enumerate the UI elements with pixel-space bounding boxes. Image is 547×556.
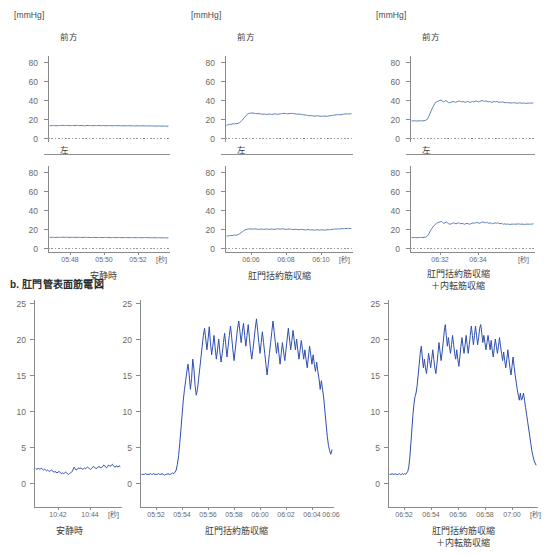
manometry-plot-3 xyxy=(370,8,547,258)
emg-xtick-1-1: 10:44 xyxy=(74,511,106,518)
emg-xtick-3-4: 07:00 xyxy=(496,511,528,518)
manometry-xtick-3-1: 06:34 xyxy=(462,256,494,263)
manometry-trace-left-3 xyxy=(412,221,533,237)
emg-section: 25 20 15 10 5 0 xyxy=(0,292,547,556)
emg-plot-2 xyxy=(108,292,338,512)
emg-panel-sphincter-adductor: 25 20 15 10 5 0 xyxy=(338,292,547,556)
emg-axes-2 xyxy=(136,300,334,510)
manometry-xtick-1-1: 05:50 xyxy=(88,256,120,263)
manometry-panel-rest: [mmHg] 前方 左 80 60 40 20 0 80 60 40 20 0 xyxy=(8,8,178,270)
emg-xtick-1-0: 10:42 xyxy=(42,511,74,518)
manometry-section: [mmHg] 前方 左 80 60 40 20 0 80 60 40 20 0 xyxy=(0,0,547,272)
manometry-trace-anterior-3 xyxy=(412,100,533,121)
manometry-panel-sphincter: [mmHg] 前方 左 80 60 40 20 0 80 60 40 20 0 xyxy=(185,8,363,270)
manometry-trace-anterior-2 xyxy=(227,113,351,125)
manometry-x-unit-3: [秒] xyxy=(518,256,529,263)
manometry-plot-2 xyxy=(185,8,363,258)
manometry-xtick-3-0: 06:32 xyxy=(424,256,456,263)
manometry-trace-left-2 xyxy=(227,228,351,236)
manometry-axes-1 xyxy=(44,56,170,255)
manometry-trace-left-1 xyxy=(50,237,168,238)
manometry-panel-sphincter-adductor: [mmHg] 前方 左 80 60 40 20 0 80 60 40 20 0 xyxy=(370,8,547,270)
manometry-xtick-2-2: 06:10 xyxy=(305,256,337,263)
manometry-xtick-1-2: 05:52 xyxy=(122,256,154,263)
manometry-xtick-1-0: 05:48 xyxy=(54,256,86,263)
emg-axes-3 xyxy=(384,300,538,510)
manometry-axes-3 xyxy=(406,56,535,255)
emg-caption-2: 肛門括約筋収縮 xyxy=(156,525,316,537)
manometry-xtick-2-1: 06:08 xyxy=(270,256,302,263)
section-b-heading: b. 肛門管表面筋電図 xyxy=(10,276,104,291)
emg-trace-2 xyxy=(142,319,332,475)
manometry-x-unit-1: [秒] xyxy=(156,256,167,263)
manometry-trace-anterior-1 xyxy=(50,125,168,126)
emg-trace-3 xyxy=(390,325,536,475)
manometry-plot-1 xyxy=(8,8,178,258)
manometry-xtick-2-0: 06:06 xyxy=(235,256,267,263)
manometry-caption-3: 肛門括約筋収縮 ＋内転筋収縮 xyxy=(378,268,538,292)
emg-caption-3: 肛門括約筋収縮 ＋内転筋収縮 xyxy=(388,525,538,549)
emg-x-unit-3: [秒] xyxy=(530,511,541,518)
emg-plot-3 xyxy=(338,292,547,512)
manometry-caption-2: 肛門括約筋収縮 xyxy=(199,270,359,282)
emg-panel-sphincter: 25 20 15 10 5 0 xyxy=(108,292,338,556)
manometry-x-unit-2: [秒] xyxy=(339,256,350,263)
manometry-axes-2 xyxy=(221,56,353,255)
figure-root: [mmHg] 前方 左 80 60 40 20 0 80 60 40 20 0 xyxy=(0,0,547,556)
